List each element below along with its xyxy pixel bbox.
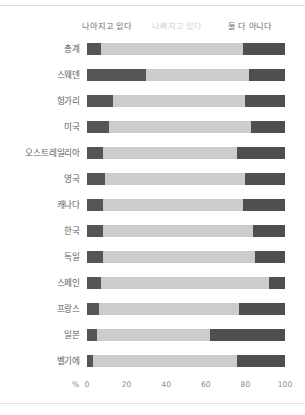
stacked-bar (87, 69, 285, 81)
chart-legend: 나아지고 있다 나빠지고 있다 둘 다 아니다 (80, 19, 293, 33)
bar-segment (105, 173, 246, 185)
bar-segment (87, 121, 109, 133)
bar-segment (251, 121, 285, 133)
bar-row: 한국 (87, 225, 285, 237)
stacked-bar (87, 277, 285, 289)
bar-segment (255, 251, 285, 263)
bar-row: 미국 (87, 121, 285, 133)
bar-segment (146, 69, 249, 81)
category-label: 프랑스 (57, 301, 80, 317)
x-axis: 020406080100 (87, 379, 285, 391)
bar-segment (237, 355, 285, 367)
x-tick-label: 40 (161, 379, 171, 391)
bar-segment (103, 147, 238, 159)
legend-item-neither: 둘 다 아니다 (228, 19, 272, 33)
bar-segment (87, 251, 103, 263)
category-label: 한국 (64, 223, 80, 239)
legend-item-worse: 나빠지고 있다 (152, 19, 202, 33)
bar-row: 일본 (87, 329, 285, 341)
stacked-bar (87, 147, 285, 159)
x-tick-label: 100 (278, 379, 293, 391)
x-tick-label: 60 (201, 379, 211, 391)
bar-segment (87, 225, 103, 237)
bar-segment (249, 69, 285, 81)
category-label: 캐나다 (57, 197, 80, 213)
bar-row: 오스트레일리아 (87, 147, 285, 159)
bar-segment (245, 95, 285, 107)
category-label: 벨기에 (57, 353, 80, 369)
bar-row: 영국 (87, 173, 285, 185)
stacked-bar (87, 173, 285, 185)
bar-row: 헝가리 (87, 95, 285, 107)
bar-segment (253, 225, 285, 237)
legend-item-better: 나아지고 있다 (82, 19, 132, 33)
category-label: 스웨덴 (57, 67, 80, 83)
bar-segment (210, 329, 285, 341)
bar-segment (269, 277, 285, 289)
top-divider (0, 5, 305, 6)
bar-segment (243, 199, 285, 211)
bottom-divider (0, 403, 305, 404)
bar-segment (87, 69, 146, 81)
x-tick-label: 0 (85, 379, 90, 391)
chart-figure: 나아지고 있다 나빠지고 있다 둘 다 아니다 총계스웨덴헝가리미국오스트레일리… (0, 0, 305, 415)
stacked-bar (87, 95, 285, 107)
stacked-bar (87, 251, 285, 263)
bar-segment (103, 199, 244, 211)
bar-segment (87, 173, 105, 185)
bar-segment (87, 95, 113, 107)
category-label: 헝가리 (57, 93, 80, 109)
category-label: 일본 (64, 327, 80, 343)
category-label: 스페인 (57, 275, 80, 291)
bar-segment (239, 303, 285, 315)
bar-row: 벨기에 (87, 355, 285, 367)
bar-segment (243, 43, 285, 55)
x-tick-label: 20 (122, 379, 132, 391)
category-label: 독일 (64, 249, 80, 265)
category-label: 영국 (64, 171, 80, 187)
stacked-bar (87, 355, 285, 367)
x-tick-label: 80 (241, 379, 251, 391)
stacked-bar (87, 329, 285, 341)
bar-segment (87, 199, 103, 211)
bar-segment (103, 225, 253, 237)
bar-segment (87, 43, 101, 55)
bar-segment (99, 303, 240, 315)
bar-segment (87, 303, 99, 315)
bar-segment (97, 329, 210, 341)
axis-unit-label: % (72, 379, 79, 391)
bar-segment (93, 355, 238, 367)
category-label: 미국 (64, 119, 80, 135)
bar-row: 캐나다 (87, 199, 285, 211)
category-label: 오스트레일리아 (25, 145, 80, 161)
bar-row: 독일 (87, 251, 285, 263)
bar-segment (245, 173, 285, 185)
stacked-bar (87, 121, 285, 133)
bar-row: 프랑스 (87, 303, 285, 315)
bar-segment (113, 95, 246, 107)
bar-row: 총계 (87, 43, 285, 55)
bar-segment (87, 147, 103, 159)
bar-row: 스페인 (87, 277, 285, 289)
stacked-bar (87, 43, 285, 55)
bar-segment (237, 147, 285, 159)
bar-segment (87, 329, 97, 341)
bar-row: 스웨덴 (87, 69, 285, 81)
stacked-bar (87, 225, 285, 237)
bar-segment (103, 251, 255, 263)
bar-segment (101, 277, 269, 289)
plot-area: 총계스웨덴헝가리미국오스트레일리아영국캐나다한국독일스페인프랑스일본벨기에 (87, 38, 285, 375)
category-label: 총계 (64, 41, 80, 57)
stacked-bar (87, 199, 285, 211)
bar-segment (109, 121, 252, 133)
bar-segment (87, 277, 101, 289)
stacked-bar (87, 303, 285, 315)
bar-segment (101, 43, 244, 55)
